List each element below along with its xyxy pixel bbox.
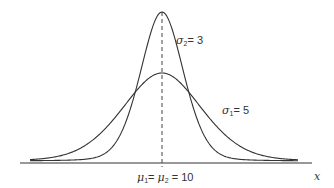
x-axis-label: x (314, 170, 320, 183)
mean-label: μ1= μ2 = 10 (137, 171, 193, 187)
wide-curve-sigma-5 (30, 73, 298, 160)
sigma2-label: σ2= 3 (176, 34, 203, 50)
narrow-curve-sigma-3 (30, 12, 298, 161)
sigma1-label: σ1= 5 (222, 104, 249, 120)
normal-distributions-chart (0, 0, 334, 188)
